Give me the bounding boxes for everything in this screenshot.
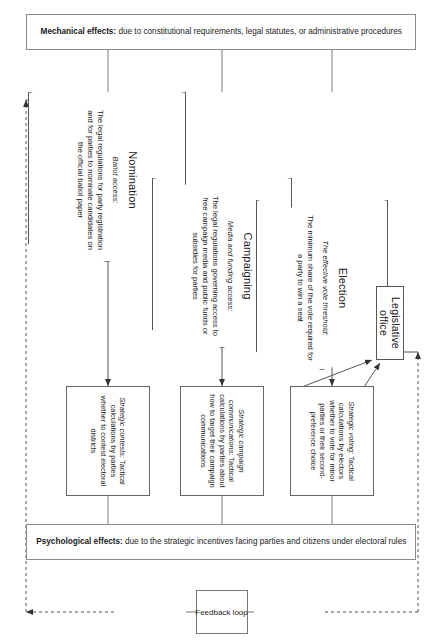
mechanical-effects-label-rest: due to constitutional requirements, lega… — [116, 27, 402, 36]
psychological-effects-label: Psychological effects: due to the strate… — [26, 524, 416, 560]
effect-strategic-campaign-communications[interactable]: Strategic campaign communications: Tacti… — [180, 386, 264, 496]
legislative-office-box[interactable]: Legislative office — [376, 286, 404, 360]
psychological-effects-label-bold: Psychological effects: — [36, 537, 122, 546]
mechanical-effects-label: Mechanical effects: due to constitutiona… — [26, 14, 416, 50]
stage-nomination-subtitle: Ballot access: — [111, 157, 120, 204]
bracket-stems-psychological — [108, 496, 332, 524]
bracket-stems-mechanical — [108, 50, 332, 92]
stage-election-title: Election — [337, 268, 349, 309]
feedback-loop-label: Feedback loop — [196, 608, 248, 617]
stage-campaigning-desc: The legal regulations governing access t… — [190, 191, 219, 341]
mechanical-effects-label-bold: Mechanical effects: — [40, 27, 116, 36]
stage-campaigning-subtitle: Media and funding access: — [226, 221, 235, 311]
diagram-rotated-layer: Mechanical effects: due to constitutiona… — [0, 0, 444, 644]
effect-strategic-voting[interactable]: Strategic voting: Tactical calculations … — [290, 386, 374, 496]
effect-strategic-contests-lead: Strategic contests: — [118, 397, 127, 458]
legislative-office-label: Legislative office — [378, 292, 402, 354]
stage-election-desc: The minimum share of the vote required f… — [295, 213, 314, 363]
feedback-loop-box[interactable]: Feedback loop — [196, 590, 248, 634]
stage-nomination-title: Nomination — [127, 151, 139, 209]
stage-election[interactable]: Election The effective vote threshold: T… — [256, 200, 388, 370]
stage-election-subtitle: The effective vote threshold: — [321, 240, 330, 335]
effect-strategic-voting-lead: Strategic voting: — [347, 401, 356, 454]
effect-strategic-contests[interactable]: Strategic contests: Tactical calculation… — [66, 386, 150, 496]
stage-nomination-desc: The legal regulations for party registra… — [75, 105, 104, 255]
psychological-effects-label-rest: due to the strategic incentives facing p… — [122, 537, 406, 546]
stage-campaigning-title: Campaigning — [242, 232, 254, 299]
diagram-canvas: Mechanical effects: due to constitutiona… — [0, 0, 444, 644]
